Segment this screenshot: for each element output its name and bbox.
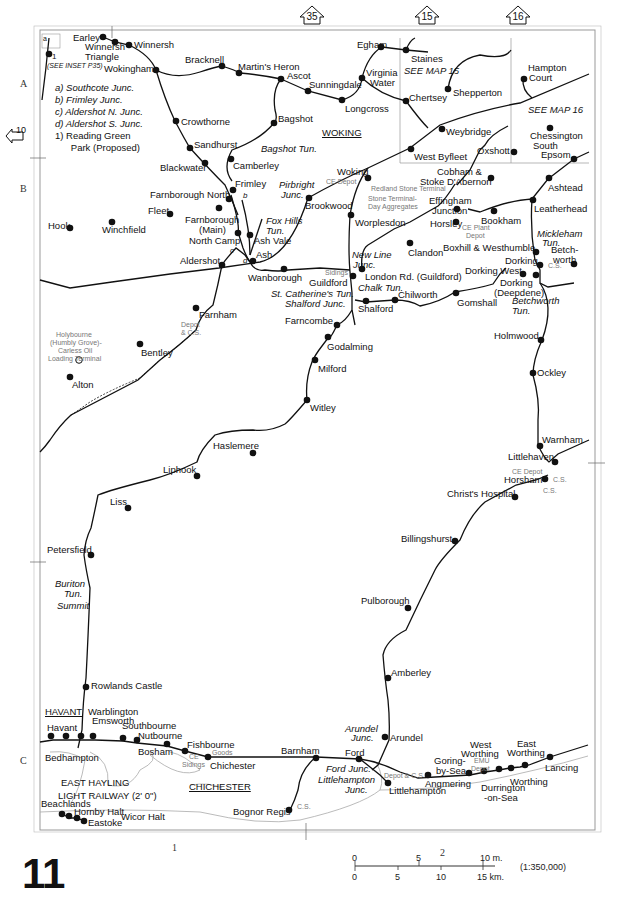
tunnel-buriton-2: Tun. [64,589,82,599]
town-chichester: CHICHESTER [189,782,251,792]
station-effingham-2: Junction [432,206,467,216]
adjacent-map-10-label[interactable]: 10 [11,125,31,135]
station-worthing: Worthing [510,777,548,787]
station-frimley: Frimley [235,179,266,189]
station-winchfield: Winchfield [102,225,146,235]
station-rowlands-castle: Rowlands Castle [91,681,162,691]
station-godalming: Godalming [327,342,373,352]
station-camberley: Camberley [233,161,279,171]
station-liss: Liss [110,497,127,507]
legend-item: 1) Reading Green [55,130,143,142]
station-ash-vale: Ash Vale [254,236,291,246]
station-guildford: Guildford [309,278,348,288]
station-angmering: Angmering [425,779,471,789]
station-brookwood: Brookwood [305,201,353,211]
station-havant: Havant [47,723,77,733]
station-farnborough-main-2: (Main) [199,225,226,235]
facility-cs-horsham-2: C.S. [543,487,557,495]
station-north-camp: North Camp [189,236,240,246]
facility-cs-horsham-1: C.S. [553,476,567,484]
junction-c: c [230,246,234,256]
adjacent-map-35-label[interactable]: 35 [302,11,322,22]
facility-ce-sidings-2: Sidings [182,761,205,769]
adjacent-map-15-label[interactable]: 15 [417,11,437,22]
station-ockley: Ockley [537,368,566,378]
facility-ce-depot-horsham: CE Depot [512,468,542,476]
station-petersfield: Petersfield [47,545,92,555]
station-leatherhead: Leatherhead [534,204,587,214]
inset-label-a: a [43,34,47,44]
station-witley: Witley [310,403,336,413]
town-woking: WOKING [322,128,362,138]
inset-note: (SEE INSET P35) [47,61,103,71]
station-ashtead: Ashtead [548,183,583,193]
station-epsom: Epsom [541,150,571,160]
station-christs-hospital: Christ's Hospital [447,489,515,499]
facility-redland: Redland Stone Terminal [371,185,446,193]
station-billingshurst: Billingshurst [401,534,452,544]
station-dorking-west: Dorking West [465,266,522,276]
station-bosham: Bosham [138,747,173,757]
see-map-16[interactable]: SEE MAP 16 [528,105,583,115]
grid-row-a: A [20,78,27,89]
tunnel-mickleham-2: Tun. [542,238,560,248]
legend: a) Southcote Junc. b) Frimley Junc. c) A… [55,82,143,154]
see-map-15[interactable]: SEE MAP 15 [404,66,459,76]
facility-emu-depot-2: Depot [471,765,490,773]
junction-b: b [243,191,247,201]
station-wokingham: Wokingham [104,64,154,74]
facility-holybourne-1: Holybourne [56,331,92,339]
facility-ce-sidings-1: CE [189,753,199,761]
station-gomshall: Gomshall [457,298,497,308]
legend-item: Park (Proposed) [55,142,143,154]
station-hornby-halt: Hornby Halt [74,807,124,817]
station-london-rd-guildford: London Rd. (Guildford) [365,272,462,282]
station-amberley: Amberley [391,668,431,678]
station-aldershot: Aldershot [180,256,220,266]
scale-km-0: 0 [352,872,357,882]
station-lancing: Lancing [545,763,578,773]
station-liphook: Liphook [163,465,196,475]
facility-depot-farnham-1: Depot [181,321,200,329]
scale-miles-0: 0 [352,853,357,863]
grid-row-c: C [20,755,27,766]
station-littlehaven: Littlehaven [508,452,554,462]
facility-ce-plant-2: Depot [466,232,485,240]
station-sandhurst: Sandhurst [194,140,237,150]
station-worplesdon: Worplesdon [355,218,406,228]
station-horsley: Horsley [430,219,462,229]
adjacent-map-16-label[interactable]: 16 [508,11,528,22]
station-clandon: Clandon [408,248,443,258]
junction-d: d [243,256,247,266]
station-ford: Ford [345,748,365,758]
station-winnersh-triangle-2: Triangle [85,52,119,62]
scale-km-15: 15 km. [477,872,504,882]
facility-sidings-guildford: Sidings [325,269,348,277]
station-horsham: Horsham [504,475,543,485]
station-winnersh: Winnersh [134,40,174,50]
station-farnham: Farnham [199,310,237,320]
facility-depot-cs-ford: Depot & C.S. [384,772,425,780]
station-fleet: Fleet [148,206,169,216]
town-havant: HAVANT [45,707,82,717]
scale-miles-5: 5 [416,853,421,863]
facility-goods: Goods [212,749,233,757]
summit-label: Summit [57,601,89,611]
junction-ford: Ford Junc. [326,764,371,774]
tunnel-bagshot: Bagshot Tun. [261,144,317,154]
station-bentley: Bentley [141,348,173,358]
facility-ce-plant-1: CE Plant [462,224,490,232]
station-ash: Ash [256,250,272,260]
station-west-byfleet: West Byfleet [414,152,467,162]
grid-row-b: B [20,183,27,194]
facility-emu-depot-1: EMU [474,757,490,765]
scale-km-5: 5 [395,872,400,882]
facility-cs-bognor: C.S. [297,803,311,811]
station-chertsey: Chertsey [409,93,447,103]
station-virginia-water-2: Water [370,78,395,88]
station-bracknell: Bracknell [185,55,224,65]
station-bognor-regis: Bognor Regis [233,807,291,817]
facility-cs-dorking: C.S. [548,262,562,270]
station-oxshott: Oxshott [477,146,510,156]
station-warnham: Warnham [542,435,583,445]
